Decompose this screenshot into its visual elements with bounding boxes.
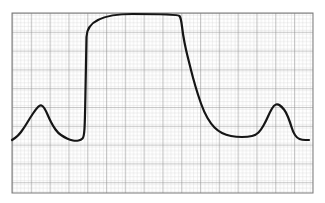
grid-paper <box>12 13 313 193</box>
waveform-chart <box>0 0 325 203</box>
